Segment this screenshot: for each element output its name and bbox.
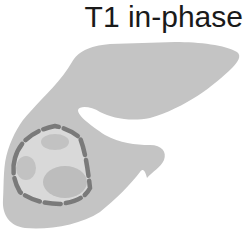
nodule-top [41,134,69,150]
nodule-bottom [43,166,87,198]
nodule-left [16,156,36,180]
liver-diagram [0,0,248,235]
